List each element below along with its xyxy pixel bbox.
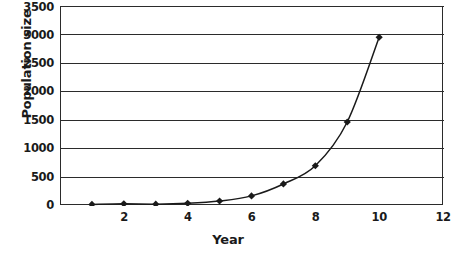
data-point-marker — [216, 197, 223, 204]
x-tick-label: 4 — [168, 210, 208, 224]
data-point-marker — [248, 192, 255, 199]
y-tick-label: 500 — [2, 170, 54, 184]
y-tick-label: 3000 — [2, 28, 54, 42]
series-curve — [92, 37, 379, 204]
data-point-marker — [88, 201, 95, 206]
x-tick-label: 2 — [104, 210, 144, 224]
y-tick-label: 0 — [2, 198, 54, 212]
data-point-marker — [152, 201, 159, 206]
y-tick-label: 2000 — [2, 84, 54, 98]
chart-figure: Population size 3500 3000 2500 2000 1500… — [0, 0, 456, 258]
data-point-marker — [184, 200, 191, 206]
x-tick-label: 12 — [423, 210, 456, 224]
data-series-line — [60, 6, 443, 206]
x-tick-label: 6 — [232, 210, 272, 224]
data-point-marker — [344, 118, 351, 125]
data-point-marker — [120, 200, 127, 206]
y-tick-label: 2500 — [2, 56, 54, 70]
data-point-marker — [280, 180, 287, 187]
y-tick-label: 3500 — [2, 0, 54, 14]
data-point-marker — [376, 34, 383, 41]
x-tick-label: 8 — [296, 210, 336, 224]
series-markers — [88, 34, 382, 206]
y-tick-label: 1500 — [2, 113, 54, 127]
x-tick-label: 10 — [359, 210, 399, 224]
x-axis-title: Year — [0, 232, 456, 247]
y-tick-label: 1000 — [2, 141, 54, 155]
